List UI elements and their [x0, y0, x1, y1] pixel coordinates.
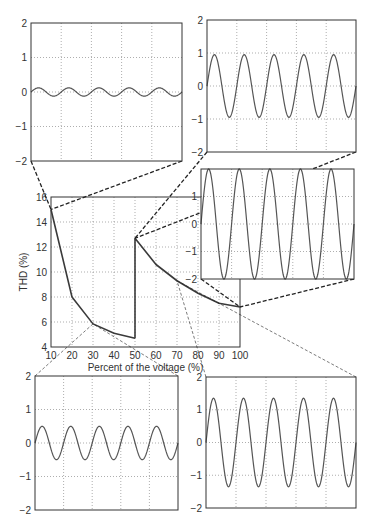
y-tick-label: 4: [41, 342, 47, 353]
inset-bottom-right: −2−1012: [191, 372, 356, 514]
y-tick-label: 1: [196, 404, 202, 415]
y-tick-label: −1: [192, 114, 204, 125]
y-tick-label: 10: [36, 267, 48, 278]
y-tick-label: −1: [20, 471, 32, 482]
x-tick-label: 70: [171, 350, 183, 361]
y-tick-label: 12: [36, 242, 48, 253]
y-tick-label: 6: [41, 317, 47, 328]
x-tick-label: 30: [87, 350, 99, 361]
inset-middle-right: −2−101: [186, 169, 354, 285]
y-tick-label: 0: [191, 219, 197, 230]
x-axis-label: Percent of the voltage (%): [88, 362, 204, 373]
y-tick-label: 0: [25, 438, 31, 449]
y-tick-label: −2: [16, 156, 28, 167]
y-tick-label: 2: [196, 372, 202, 383]
y-tick-label: 1: [21, 52, 27, 63]
x-tick-label: 90: [213, 350, 225, 361]
y-tick-label: −1: [16, 121, 28, 132]
y-tick-label: 14: [36, 217, 48, 228]
y-tick-label: −1: [191, 470, 203, 481]
y-tick-label: 2: [21, 18, 27, 29]
x-tick-label: 100: [232, 350, 249, 361]
zoom-link-line: [240, 279, 354, 307]
y-tick-label: 8: [41, 292, 47, 303]
y-tick-label: −2: [20, 505, 32, 516]
x-tick-label: 60: [150, 350, 162, 361]
x-tick-label: 20: [66, 350, 78, 361]
y-tick-label: 2: [197, 15, 203, 26]
y-tick-label: 1: [191, 191, 197, 202]
y-tick-label: −2: [192, 147, 204, 158]
y-tick-label: −1: [186, 246, 198, 257]
inset-top-right: −2−1012: [192, 15, 356, 158]
y-tick-label: −2: [191, 503, 203, 514]
y-axis-label: THD (%): [18, 253, 29, 292]
x-tick-label: 40: [108, 350, 120, 361]
y-tick-label: 2: [25, 371, 31, 382]
y-tick-label: 0: [21, 87, 27, 98]
y-tick-label: 0: [197, 81, 203, 92]
y-tick-label: 0: [196, 437, 202, 448]
y-tick-label: 1: [197, 48, 203, 59]
x-tick-label: 50: [129, 350, 141, 361]
x-tick-label: 10: [45, 350, 57, 361]
y-tick-label: −2: [186, 274, 198, 285]
y-tick-label: 1: [25, 404, 31, 415]
thd-figure: 10203040506070809010046810121416Percent …: [0, 0, 374, 527]
inset-top-left: −2−1012: [16, 18, 182, 167]
inset-bottom-left: −2−1012: [20, 371, 178, 516]
